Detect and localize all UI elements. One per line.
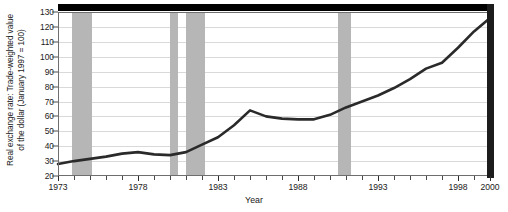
x-axis-tick-mark bbox=[362, 176, 363, 180]
y-axis-tick-label: 30 bbox=[28, 157, 54, 165]
x-axis-tick-mark bbox=[218, 176, 219, 181]
y-axis-tick-mark bbox=[52, 26, 58, 27]
x-axis-tick-mark bbox=[474, 176, 475, 180]
x-axis-tick-mark bbox=[58, 176, 59, 181]
y-axis-tick-mark bbox=[52, 41, 58, 42]
x-axis-tick-mark bbox=[442, 176, 443, 180]
y-axis-label-line2: of the dollar (January 1997 = 100) bbox=[16, 14, 27, 166]
x-axis-tick-mark bbox=[426, 176, 427, 180]
x-axis-tick-mark bbox=[74, 176, 75, 180]
x-axis-tick-mark bbox=[250, 176, 251, 180]
y-axis-tick-mark bbox=[52, 116, 58, 117]
y-axis-tick-label: 110 bbox=[28, 38, 54, 46]
x-axis-tick-mark bbox=[314, 176, 315, 180]
x-axis-tick-label: 1978 bbox=[128, 182, 147, 192]
y-axis-tick-mark bbox=[52, 71, 58, 72]
y-axis-tick-label: 80 bbox=[28, 82, 54, 90]
x-axis-tick-label: 2000 bbox=[480, 182, 499, 192]
x-axis-label: Year bbox=[0, 195, 508, 205]
x-axis-tick-label: 1988 bbox=[288, 182, 307, 192]
y-axis-tick-mark bbox=[52, 12, 58, 13]
x-axis-tick-mark bbox=[394, 176, 395, 180]
y-axis-tick-label: 130 bbox=[28, 8, 54, 16]
y-axis-tick-mark bbox=[52, 131, 58, 132]
y-axis-tick-mark bbox=[52, 146, 58, 147]
x-axis-tick-mark bbox=[266, 176, 267, 180]
y-axis-tick-label: 70 bbox=[28, 97, 54, 105]
x-axis-tick-label: 1973 bbox=[48, 182, 67, 192]
plot-right-rule bbox=[487, 4, 494, 178]
y-axis-tick-label: 90 bbox=[28, 67, 54, 75]
x-axis-tick-mark bbox=[410, 176, 411, 180]
y-axis-tick-mark bbox=[52, 161, 58, 162]
series-line-real-dollar bbox=[58, 18, 490, 164]
x-axis-tick-mark bbox=[154, 176, 155, 180]
x-axis-tick-mark bbox=[186, 176, 187, 180]
y-axis-label-text: Real exchange rate: Trade-weighted value… bbox=[5, 14, 27, 166]
y-axis-tick-mark bbox=[52, 101, 58, 102]
x-axis-tick-mark bbox=[490, 176, 491, 181]
y-axis-tick-label: 20 bbox=[28, 172, 54, 180]
x-axis-tick-mark bbox=[458, 176, 459, 181]
series-line-svg bbox=[58, 12, 490, 176]
x-axis-tick-label: 1993 bbox=[368, 182, 387, 192]
y-axis-tick-label: 100 bbox=[28, 52, 54, 60]
y-axis-tick-label: 120 bbox=[28, 23, 54, 31]
x-axis-tick-mark bbox=[330, 176, 331, 180]
x-axis-tick-mark bbox=[138, 176, 139, 181]
y-axis-tick-mark bbox=[52, 176, 58, 177]
chart-figure: Real exchange rate: Trade-weighted value… bbox=[0, 0, 508, 212]
x-axis-tick-mark bbox=[282, 176, 283, 180]
y-axis-label-line1: Real exchange rate: Trade-weighted value bbox=[5, 14, 16, 166]
y-axis-tick-label: 50 bbox=[28, 127, 54, 135]
y-axis-tick-mark bbox=[52, 56, 58, 57]
x-axis-tick-mark bbox=[378, 176, 379, 181]
x-axis-tick-mark bbox=[202, 176, 203, 180]
x-axis-tick-label: 1998 bbox=[448, 182, 467, 192]
x-axis-tick-mark bbox=[106, 176, 107, 180]
y-axis-tick-label: 60 bbox=[28, 112, 54, 120]
plot-area bbox=[58, 12, 490, 176]
x-axis-tick-mark bbox=[234, 176, 235, 180]
x-axis-tick-mark bbox=[90, 176, 91, 180]
x-axis-tick-label: 1983 bbox=[208, 182, 227, 192]
x-axis-tick-mark bbox=[170, 176, 171, 180]
x-axis-tick-mark bbox=[122, 176, 123, 180]
y-axis-tick-label: 40 bbox=[28, 142, 54, 150]
plot-top-rule bbox=[58, 4, 494, 11]
y-axis-tick-mark bbox=[52, 86, 58, 87]
y-axis-tick-labels: 1301201101009080706050403020 bbox=[28, 0, 54, 190]
x-axis-tick-mark bbox=[298, 176, 299, 181]
x-axis-tick-mark bbox=[346, 176, 347, 180]
